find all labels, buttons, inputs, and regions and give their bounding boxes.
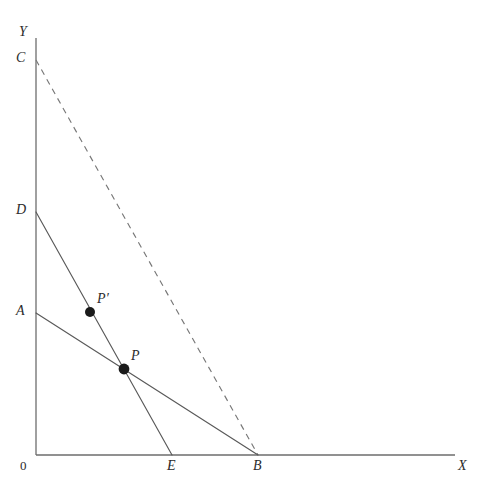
intercept-label-c: C [16, 51, 26, 65]
point-p-dot [119, 364, 130, 375]
axes-group [36, 38, 455, 455]
intercept-label-b: B [253, 459, 262, 473]
budget-lines-group [36, 60, 258, 455]
budget-line-diagram: Y X 0 C D A E B P′ P [0, 0, 490, 490]
intercept-label-d: D [16, 203, 26, 217]
line-AB [36, 313, 258, 455]
points-group [85, 307, 129, 374]
x-axis-label: X [458, 459, 467, 473]
point-label-p-prime: P′ [97, 292, 109, 306]
origin-label: 0 [20, 459, 27, 472]
point-label-p: P [131, 349, 140, 363]
y-axis-label: Y [19, 25, 27, 39]
intercept-label-e: E [167, 459, 176, 473]
line-DE [36, 212, 172, 455]
intercept-label-a: A [16, 304, 25, 318]
point-p-prime-dot [85, 307, 95, 317]
line-CB [36, 60, 258, 455]
diagram-canvas [0, 0, 490, 490]
